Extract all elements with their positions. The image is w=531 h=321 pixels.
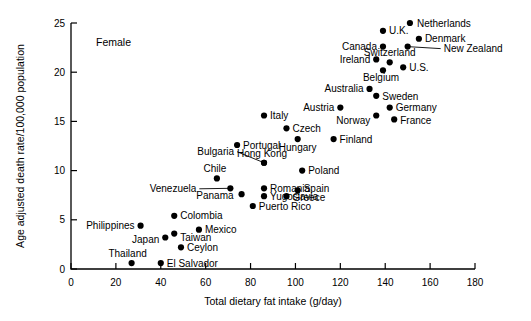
data-point-label: Netherlands bbox=[417, 18, 471, 29]
data-point bbox=[416, 36, 422, 42]
data-point-label: Norway bbox=[336, 115, 370, 126]
y-axis-title: Age adjusted death rate/100,000 populati… bbox=[14, 44, 26, 248]
x-tick-label: 80 bbox=[245, 277, 257, 288]
data-point bbox=[214, 175, 220, 181]
data-point-label: Ireland bbox=[340, 54, 371, 65]
data-point bbox=[129, 260, 135, 266]
data-point-label: Germany bbox=[396, 102, 437, 113]
point-labels: NetherlandsU.K.DenmarkCanadaNew ZealandS… bbox=[86, 18, 502, 269]
data-point bbox=[337, 105, 343, 111]
data-point-label: Puerto Rico bbox=[259, 201, 312, 212]
data-point bbox=[158, 260, 164, 266]
data-point bbox=[331, 136, 337, 142]
data-point bbox=[261, 185, 267, 191]
data-point bbox=[391, 116, 397, 122]
data-point bbox=[137, 223, 143, 229]
data-point-label: Philippines bbox=[86, 220, 134, 231]
data-point-label: U.K. bbox=[389, 25, 408, 36]
y-tick-label: 25 bbox=[54, 18, 66, 29]
data-point-label: Finland bbox=[340, 134, 373, 145]
x-tick-label: 20 bbox=[110, 277, 122, 288]
data-point-label: Sweden bbox=[382, 91, 418, 102]
data-point-label: Colombia bbox=[180, 210, 223, 221]
data-point-label: Chile bbox=[203, 163, 226, 174]
data-point-label: Switzerland bbox=[364, 47, 416, 58]
data-point-label: France bbox=[400, 115, 432, 126]
x-tick-label: 100 bbox=[287, 277, 304, 288]
x-tick-label: 140 bbox=[377, 277, 394, 288]
scatter-chart: 0204060801001201401601800510152025Total … bbox=[0, 0, 531, 321]
data-point bbox=[366, 86, 372, 92]
data-point-label: Australia bbox=[325, 83, 364, 94]
data-point bbox=[380, 28, 386, 34]
data-point bbox=[171, 213, 177, 219]
data-point bbox=[238, 191, 244, 197]
data-point-label: Hong Kong bbox=[237, 148, 287, 159]
data-point bbox=[400, 64, 406, 70]
y-tick-label: 10 bbox=[54, 165, 66, 176]
data-point-label: Bulgaria bbox=[197, 146, 234, 157]
x-tick-label: 40 bbox=[155, 277, 167, 288]
y-tick-label: 5 bbox=[59, 214, 65, 225]
data-point-label: El Salvador bbox=[167, 258, 219, 269]
x-tick-label: 0 bbox=[68, 277, 74, 288]
data-point-label: Japan bbox=[132, 234, 159, 245]
data-point bbox=[387, 59, 393, 65]
data-point-label: Panama bbox=[196, 190, 234, 201]
data-point bbox=[261, 193, 267, 199]
data-point-label: Poland bbox=[308, 165, 339, 176]
data-point-label: Ceylon bbox=[187, 242, 218, 253]
y-tick-label: 15 bbox=[54, 116, 66, 127]
data-point bbox=[261, 112, 267, 118]
data-point bbox=[261, 160, 267, 166]
data-point bbox=[387, 105, 393, 111]
data-point-label: Belgium bbox=[363, 72, 399, 83]
x-tick-label: 60 bbox=[200, 277, 212, 288]
data-point bbox=[178, 244, 184, 250]
data-point-label: New Zealand bbox=[444, 43, 503, 54]
y-tick-label: 0 bbox=[59, 264, 65, 275]
x-tick-label: 180 bbox=[467, 277, 484, 288]
x-tick-label: 160 bbox=[422, 277, 439, 288]
data-point-label: Austria bbox=[303, 102, 335, 113]
data-point bbox=[162, 234, 168, 240]
data-point bbox=[373, 93, 379, 99]
chart-annotations: Female bbox=[96, 36, 131, 48]
data-point bbox=[250, 203, 256, 209]
data-point bbox=[171, 230, 177, 236]
female-annotation: Female bbox=[96, 36, 131, 48]
chart-canvas: 0204060801001201401601800510152025Total … bbox=[0, 0, 531, 321]
y-tick-label: 20 bbox=[54, 67, 66, 78]
data-point-label: Czech bbox=[292, 123, 320, 134]
data-point bbox=[299, 168, 305, 174]
data-point-label: U.S. bbox=[409, 62, 428, 73]
data-point-label: Italy bbox=[270, 110, 288, 121]
x-tick-label: 120 bbox=[332, 277, 349, 288]
data-point bbox=[283, 125, 289, 131]
data-point bbox=[373, 112, 379, 118]
data-point-label: Venezuela bbox=[150, 183, 197, 194]
data-point-label: Thailand bbox=[108, 248, 146, 259]
x-axis-title: Total dietary fat intake (g/day) bbox=[204, 295, 342, 307]
